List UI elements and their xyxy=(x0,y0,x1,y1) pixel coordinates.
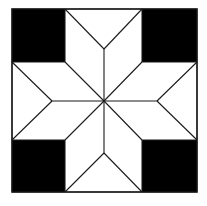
corner-square-top-left xyxy=(12,9,65,62)
star-pattern xyxy=(0,0,207,206)
corner-square-bottom-right xyxy=(142,140,197,192)
corner-square-top-right xyxy=(142,9,197,62)
corner-square-bottom-left xyxy=(12,140,65,192)
quilt-block-figure xyxy=(0,0,207,206)
